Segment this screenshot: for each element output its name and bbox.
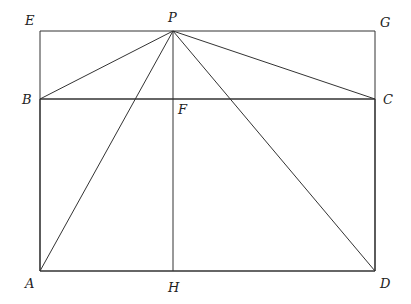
segment-PB	[40, 31, 173, 99]
label-C: C	[383, 92, 393, 107]
segment-PD	[173, 31, 375, 271]
label-P: P	[167, 10, 177, 25]
label-A: A	[24, 276, 34, 291]
label-B: B	[21, 92, 32, 107]
label-F: F	[177, 102, 188, 117]
label-G: G	[380, 15, 390, 30]
segment-PA	[40, 31, 173, 271]
label-H: H	[167, 280, 180, 295]
segment-PC	[173, 31, 375, 99]
diagram-svg: E P G B F C A H D	[0, 0, 411, 304]
label-E: E	[24, 13, 35, 28]
label-D: D	[379, 276, 391, 291]
geometry-diagram: E P G B F C A H D	[0, 0, 411, 304]
